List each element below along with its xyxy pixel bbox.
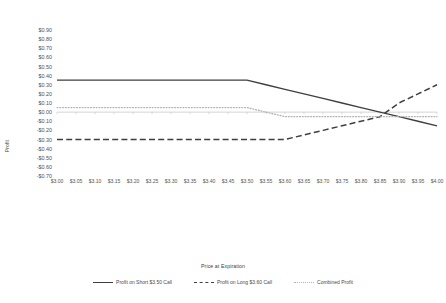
legend-item[interactable]: Profit on Short $3.50 Call: [93, 279, 172, 285]
x-tick-label: $3.25: [146, 178, 159, 184]
legend-item[interactable]: Profit on Long $3.60 Call: [194, 279, 272, 285]
x-tick-label: $3.75: [336, 178, 349, 184]
chart-legend: Profit on Short $3.50 CallProfit on Long…: [0, 279, 446, 285]
x-tick-label: $3.40: [203, 178, 216, 184]
x-tick-label: $3.80: [355, 178, 368, 184]
x-tick-label: $3.45: [222, 178, 235, 184]
x-tick-label: $4.00: [431, 178, 444, 184]
profit-chart: Profit $0.90$0.80$0.70$0.60$0.50$0.40$0.…: [0, 0, 446, 303]
x-tick-label: $3.35: [184, 178, 197, 184]
legend-label: Combined Profit: [317, 279, 353, 285]
x-tick-label: $3.30: [165, 178, 178, 184]
x-tick-label: $3.10: [89, 178, 102, 184]
x-tick-label: $3.50: [241, 178, 254, 184]
x-tick-label: $3.65: [298, 178, 311, 184]
x-axis-tick-labels: $3.00$3.05$3.10$3.15$3.20$3.25$3.30$3.35…: [0, 0, 446, 303]
x-tick-label: $3.15: [108, 178, 121, 184]
x-tick-label: $3.95: [412, 178, 425, 184]
legend-label: Profit on Long $3.60 Call: [217, 279, 272, 285]
x-tick-label: $3.00: [51, 178, 64, 184]
legend-line-swatch-icon: [93, 279, 113, 285]
x-axis-title: Price at Expiration: [0, 263, 446, 269]
x-tick-label: $3.60: [279, 178, 292, 184]
x-tick-label: $3.90: [393, 178, 406, 184]
x-tick-label: $3.20: [127, 178, 140, 184]
legend-item[interactable]: Combined Profit: [294, 279, 353, 285]
x-tick-label: $3.05: [70, 178, 83, 184]
legend-line-swatch-icon: [194, 279, 214, 285]
x-tick-label: $3.55: [260, 178, 273, 184]
legend-label: Profit on Short $3.50 Call: [116, 279, 172, 285]
legend-line-swatch-icon: [294, 279, 314, 285]
x-tick-label: $3.85: [374, 178, 387, 184]
x-tick-label: $3.70: [317, 178, 330, 184]
